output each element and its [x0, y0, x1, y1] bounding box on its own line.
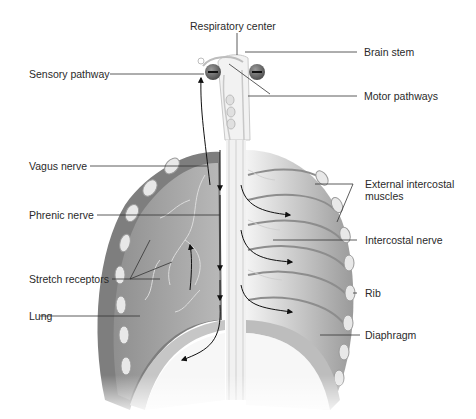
inhibition-symbol-right: [249, 64, 265, 80]
label-external-intercostal-line1: External intercostal: [365, 178, 454, 190]
label-brain-stem: Brain stem: [364, 46, 414, 58]
label-stretch-receptors: Stretch receptors: [29, 273, 109, 285]
inhibition-symbol-left: [205, 64, 221, 80]
label-sensory-pathway: Sensory pathway: [29, 68, 110, 80]
label-external-intercostal-muscles: External intercostal muscles: [365, 178, 454, 202]
brain-stem-illustration: [198, 55, 250, 140]
spinal-cord-illustration: [226, 140, 246, 400]
label-vagus-nerve: Vagus nerve: [29, 160, 87, 172]
label-rib: Rib: [365, 287, 381, 299]
label-diaphragm: Diaphragm: [365, 329, 416, 341]
label-lung: Lung: [29, 310, 52, 322]
label-phrenic-nerve: Phrenic nerve: [29, 209, 94, 221]
label-intercostal-nerve: Intercostal nerve: [365, 234, 443, 246]
label-external-intercostal-line2: muscles: [365, 190, 404, 202]
right-chest-wall-illustration: [246, 150, 355, 410]
left-lung-illustration: [98, 152, 225, 410]
label-respiratory-center: Respiratory center: [190, 20, 276, 32]
label-motor-pathways: Motor pathways: [364, 90, 438, 102]
